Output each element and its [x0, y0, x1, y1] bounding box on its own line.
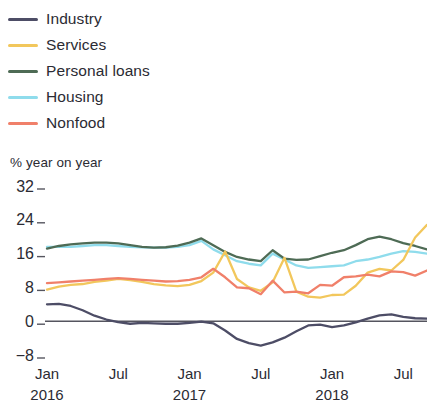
series-line-housing: [47, 241, 427, 268]
legend-item-housing[interactable]: Housing: [0, 84, 240, 110]
legend-label-services: Services: [46, 37, 106, 53]
legend-item-industry[interactable]: Industry: [0, 6, 240, 32]
x-tick-label: Jan: [35, 365, 59, 382]
legend-swatch-services-icon: [0, 44, 46, 47]
x-tick-year-label: 2017: [173, 386, 206, 403]
y-tick-label: 0: [25, 313, 34, 330]
chart-legend: IndustryServicesPersonal loansHousingNon…: [0, 0, 240, 136]
y-axis-ticks: 32241680−8: [16, 178, 45, 364]
legend-line-swatch: [8, 96, 38, 99]
x-tick-label: Jan: [320, 365, 344, 382]
legend-line-swatch: [8, 122, 38, 125]
x-tick-label: Jul: [251, 365, 270, 382]
legend-line-swatch: [8, 70, 38, 73]
x-tick-year-label: 2018: [315, 386, 348, 403]
legend-item-nonfood[interactable]: Nonfood: [0, 110, 240, 136]
y-tick-label: 16: [16, 245, 34, 262]
line-chart-svg: 32241680−8 Jan2016JulJan2017JulJan2018Ju…: [0, 178, 427, 414]
y-tick-label: −8: [16, 347, 34, 364]
x-tick-label: Jul: [109, 365, 128, 382]
legend-label-nonfood: Nonfood: [46, 115, 105, 131]
legend-label-housing: Housing: [46, 89, 104, 105]
x-tick-year-label: 2016: [30, 386, 63, 403]
legend-line-swatch: [8, 44, 38, 47]
x-axis-ticks: Jan2016JulJan2017JulJan2018Jul: [30, 365, 413, 403]
series-line-personal-loans: [47, 237, 427, 262]
legend-swatch-personal_loans-icon: [0, 70, 46, 73]
x-tick-label: Jan: [177, 365, 201, 382]
legend-label-personal_loans: Personal loans: [46, 63, 150, 79]
legend-swatch-housing-icon: [0, 96, 46, 99]
y-tick-label: 32: [16, 178, 34, 195]
y-tick-label: 8: [25, 279, 34, 296]
plot-area: 32241680−8 Jan2016JulJan2017JulJan2018Ju…: [0, 178, 427, 414]
y-tick-label: 24: [16, 211, 34, 228]
legend-swatch-industry-icon: [0, 18, 46, 21]
series-line-industry: [47, 304, 427, 346]
chart-figure: IndustryServicesPersonal loansHousingNon…: [0, 0, 427, 414]
series-group: [47, 225, 427, 346]
legend-item-personal_loans[interactable]: Personal loans: [0, 58, 240, 84]
x-tick-label: Jul: [394, 365, 413, 382]
legend-label-industry: Industry: [46, 11, 102, 27]
y-axis-title: % year on year: [10, 155, 102, 170]
legend-item-services[interactable]: Services: [0, 32, 240, 58]
legend-swatch-nonfood-icon: [0, 122, 46, 125]
legend-line-swatch: [8, 18, 38, 21]
